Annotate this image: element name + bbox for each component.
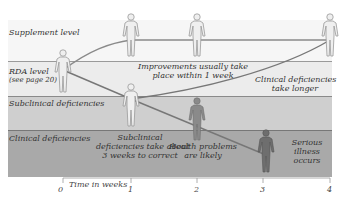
note-clinical-longer: Clinical deficiencies take longer [255,75,335,93]
note-improvements: Improvements usually take place within 1… [133,62,253,80]
tick-label-2: 2 [194,185,199,194]
person-supplement-week4-icon [322,14,338,56]
axis-title: Time in weeks [69,180,127,189]
person-rda-level-icon [55,50,71,92]
person-subclinical-icon [123,84,139,126]
person-supplement-week1-icon [123,14,139,56]
note-serious-illness: Serious illness occurs [285,138,329,165]
tick-label-0: 0 [58,185,63,194]
diagram-lines-and-figures [0,0,348,205]
note-health-problems: Health problems are likely [168,142,238,160]
person-health-problems-icon [189,98,205,140]
tick-label-3: 3 [260,185,265,194]
person-supplement-week2-icon [189,14,205,56]
person-serious-illness-icon [258,130,274,172]
tick-label-4: 4 [327,185,332,194]
decline-line-1 [63,70,131,99]
tick-label-1: 1 [128,185,133,194]
